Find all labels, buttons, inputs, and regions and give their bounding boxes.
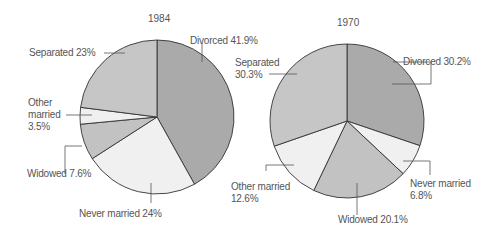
chart-title-1984: 1984 bbox=[148, 13, 170, 24]
label-1984-divorced: Divorced 41.9% bbox=[190, 35, 258, 47]
label-1984-never-married: Never married 24% bbox=[79, 208, 162, 220]
chart-title-1970: 1970 bbox=[337, 17, 359, 28]
label-1984-other-married-3: 3.5% bbox=[28, 121, 50, 133]
label-1984-other-married-2: married bbox=[28, 109, 61, 121]
label-1984-widowed: Widowed 7.6% bbox=[27, 168, 91, 180]
label-1970-never-married-1: Never married bbox=[410, 178, 471, 190]
label-1970-divorced: Divorced 30.2% bbox=[403, 56, 471, 68]
label-1970-separated-1: Separated bbox=[235, 57, 279, 69]
pie-1970 bbox=[270, 44, 424, 198]
label-1970-other-married-2: 12.6% bbox=[231, 193, 258, 205]
label-1970-separated-2: 30.3% bbox=[235, 69, 262, 81]
label-1984-separated: Separated 23% bbox=[29, 47, 95, 59]
label-1984-other-married-1: Other bbox=[28, 97, 52, 109]
label-1970-other-married-1: Other married bbox=[231, 181, 290, 193]
label-1970-never-married-2: 6.8% bbox=[410, 190, 432, 202]
label-1970-widowed: Widowed 20.1% bbox=[338, 214, 408, 226]
pie-1984 bbox=[80, 40, 234, 194]
